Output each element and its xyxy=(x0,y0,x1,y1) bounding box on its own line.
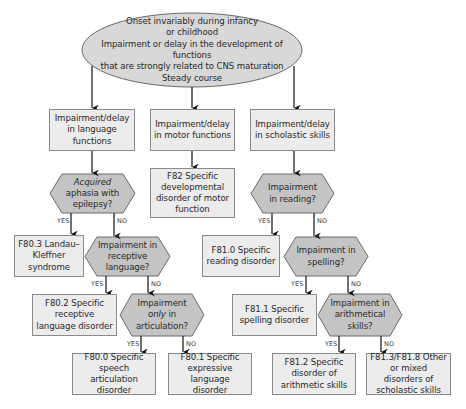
arithmetical-question: Impairment in arithmetical skills? xyxy=(318,294,402,336)
root-line-2: or childhood xyxy=(166,27,218,38)
arithmetical-label: Impairment in arithmetical skills? xyxy=(330,298,390,332)
f80-2-label: F80.2 Specific receptive language disord… xyxy=(36,298,113,332)
language-functions-label: Impairment/delay in language functions xyxy=(53,113,131,147)
arithmetical-no-label: NO xyxy=(384,340,394,348)
f81-2-box: F81.2 Specific disorder of arithmetic sk… xyxy=(272,353,356,395)
f82-label: F82 Specific developmental disorder of m… xyxy=(154,171,231,216)
reading-no-label: NO xyxy=(317,217,327,225)
receptive-language-question: Impairment in receptive language? xyxy=(85,237,170,276)
f81-1-label: F81.1 Specific spelling disorder xyxy=(236,304,313,326)
f81-0-box: F81.0 Specific reading disorder xyxy=(202,235,280,277)
root-line-3: Impairment or delay in the development o… xyxy=(82,39,302,62)
f80-0-label: F80.0 Specific speech articulation disor… xyxy=(76,352,152,397)
only-italic: only xyxy=(148,309,166,319)
f80-3-label: F80.3 Landau–Kleffner syndrome xyxy=(18,239,80,273)
spelling-no-label: NO xyxy=(351,280,361,288)
root-line-1: Onset invariably during infancy xyxy=(126,16,258,27)
f80-1-label: F80.1 Specific expressive language disor… xyxy=(172,352,248,397)
arithmetical-yes-label: YES xyxy=(325,340,337,348)
articulation-question: Impairment only in articulation? xyxy=(120,294,204,336)
scholastic-skills-label: Impairment/delay in scholastic skills xyxy=(254,119,331,141)
articulation-label: Impairment only in articulation? xyxy=(132,298,192,332)
f81-3-f81-8-label: F81.3/F81.8 Other or mixed disorders of … xyxy=(370,352,447,397)
spelling-yes-label: YES xyxy=(291,280,303,288)
receptive-yes-label: YES xyxy=(91,280,103,288)
reading-question: Impairment in reading? xyxy=(251,174,334,213)
acquired-aphasia-question: Acquired aphasia with epilepsy? xyxy=(50,174,135,213)
spelling-question: Impairment in spelling? xyxy=(284,237,368,276)
f81-1-box: F81.1 Specific spelling disorder xyxy=(232,294,317,336)
reading-label: Impairment in reading? xyxy=(263,182,322,204)
f81-0-label: F81.0 Specific reading disorder xyxy=(206,245,276,267)
f80-2-box: F80.2 Specific receptive language disord… xyxy=(32,294,117,336)
f82-box: F82 Specific developmental disorder of m… xyxy=(150,168,235,218)
motor-functions-label: Impairment/delay in motor functions xyxy=(154,119,231,141)
f81-2-label: F81.2 Specific disorder of arithmetic sk… xyxy=(276,357,352,391)
root-criteria: Onset invariably during infancy or child… xyxy=(82,13,302,87)
articulation-yes-label: YES xyxy=(127,340,139,348)
language-functions-box: Impairment/delay in language functions xyxy=(49,109,135,151)
aphasia-yes-label: YES xyxy=(57,217,69,225)
motor-functions-box: Impairment/delay in motor functions xyxy=(150,109,235,151)
scholastic-skills-box: Impairment/delay in scholastic skills xyxy=(250,109,335,151)
articulation-pre: Impairment xyxy=(138,298,187,308)
root-line-4: that are strongly related to CNS maturat… xyxy=(101,61,284,72)
f80-3-box: F80.3 Landau–Kleffner syndrome xyxy=(14,235,84,277)
acquired-italic: Acquired xyxy=(74,177,111,187)
acquired-aphasia-label: Acquired aphasia with epilepsy? xyxy=(62,177,123,211)
acquired-rest: aphasia with epilepsy? xyxy=(66,188,119,209)
reading-yes-label: YES xyxy=(258,217,270,225)
receptive-no-label: NO xyxy=(151,280,161,288)
spelling-label: Impairment in spelling? xyxy=(296,245,356,267)
f80-1-box: F80.1 Specific expressive language disor… xyxy=(168,353,252,395)
f81-3-f81-8-box: F81.3/F81.8 Other or mixed disorders of … xyxy=(366,353,451,395)
receptive-language-label: Impairment in receptive language? xyxy=(97,240,158,274)
root-line-5: Steady course xyxy=(162,73,222,84)
f80-0-box: F80.0 Specific speech articulation disor… xyxy=(72,353,156,395)
aphasia-no-label: NO xyxy=(117,217,127,225)
articulation-no-label: NO xyxy=(186,340,196,348)
